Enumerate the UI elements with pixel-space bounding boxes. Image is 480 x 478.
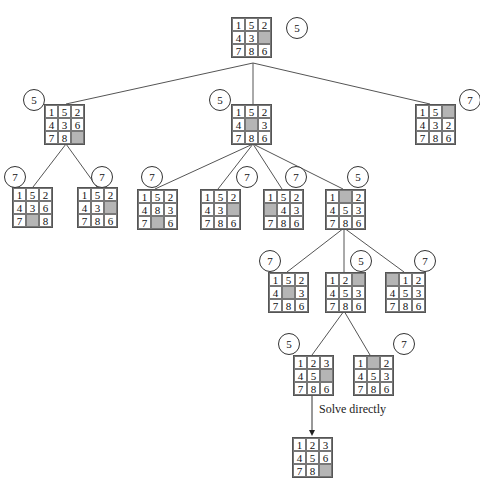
- tile: 2: [442, 118, 455, 131]
- tile: 3: [245, 31, 258, 44]
- tile: 2: [71, 105, 84, 118]
- puzzle-board: 12453786: [325, 272, 366, 313]
- tile: 3: [412, 286, 425, 299]
- tile: 5: [339, 203, 352, 216]
- tile: 8: [339, 299, 352, 312]
- tile: 2: [258, 105, 271, 118]
- tile: 1: [326, 190, 339, 203]
- tile: 4: [269, 286, 282, 299]
- tile: 4: [45, 118, 58, 131]
- tile: 8: [367, 382, 380, 395]
- tile: 8: [429, 131, 442, 144]
- tile: 5: [214, 190, 227, 203]
- tile: 3: [258, 118, 271, 131]
- tile: 7: [264, 216, 277, 229]
- blank-tile: [71, 131, 84, 144]
- tile: 4: [386, 286, 399, 299]
- tile: 7: [201, 216, 214, 229]
- tile: 4: [78, 201, 91, 214]
- tile: 5: [26, 188, 39, 201]
- blank-tile: [367, 356, 380, 369]
- puzzle-board: 12345678: [292, 437, 333, 478]
- tile: 2: [412, 273, 425, 286]
- tile: 8: [91, 214, 104, 227]
- blank-tile: [264, 203, 277, 216]
- tile: 4: [201, 203, 214, 216]
- search-tree-diagram: 1524378651524367851524378651543278671524…: [0, 0, 480, 478]
- tile: 7: [232, 44, 245, 57]
- tile: 1: [264, 190, 277, 203]
- puzzle-board: 12345786: [293, 355, 334, 396]
- tile: 5: [429, 105, 442, 118]
- tile: 5: [399, 286, 412, 299]
- blank-tile: [227, 203, 240, 216]
- tile: 5: [367, 369, 380, 382]
- puzzle-board: 15243786: [263, 189, 304, 230]
- tile: 8: [214, 216, 227, 229]
- tile: 3: [429, 118, 442, 131]
- tile: 8: [151, 203, 164, 216]
- tile: 3: [295, 286, 308, 299]
- solve-directly-label: Solve directly: [319, 402, 386, 417]
- tile: 7: [13, 214, 26, 227]
- cost-badge: 5: [278, 333, 300, 355]
- tile: 7: [416, 131, 429, 144]
- cost-badge: 7: [414, 250, 436, 272]
- tile: 6: [352, 216, 365, 229]
- tile: 8: [339, 216, 352, 229]
- tile: 1: [416, 105, 429, 118]
- cost-badge: 7: [91, 166, 113, 188]
- tile: 4: [354, 369, 367, 382]
- tile: 7: [269, 299, 282, 312]
- tile: 1: [201, 190, 214, 203]
- tree-edge: [253, 63, 430, 104]
- tile: 1: [13, 188, 26, 201]
- blank-tile: [26, 214, 39, 227]
- tile: 4: [138, 203, 151, 216]
- tile: 6: [104, 214, 117, 227]
- tile: 6: [39, 201, 52, 214]
- tile: 6: [164, 216, 177, 229]
- tile: 5: [58, 105, 71, 118]
- cost-badge: 5: [286, 17, 308, 39]
- tile: 1: [294, 356, 307, 369]
- tile: 1: [232, 18, 245, 31]
- cost-badge: 7: [141, 166, 163, 188]
- tree-edge: [33, 144, 66, 187]
- puzzle-board: 15432786: [415, 104, 456, 145]
- blank-tile: [282, 286, 295, 299]
- puzzle-board: 12453786: [385, 272, 426, 313]
- puzzle-board: 15248376: [137, 189, 178, 230]
- tile: 8: [307, 382, 320, 395]
- tile: 3: [380, 369, 393, 382]
- blank-tile: [319, 464, 332, 477]
- cost-badge: 7: [4, 166, 26, 188]
- tile: 6: [320, 382, 333, 395]
- tree-edge: [344, 311, 370, 355]
- tile: 3: [352, 286, 365, 299]
- blank-tile: [104, 201, 117, 214]
- puzzle-board: 15243786: [231, 17, 272, 58]
- tile: 6: [442, 131, 455, 144]
- tile: 7: [326, 216, 339, 229]
- tile: 6: [290, 216, 303, 229]
- tile: 6: [380, 382, 393, 395]
- tile: 6: [258, 131, 271, 144]
- tile: 4: [326, 203, 339, 216]
- tile: 2: [295, 273, 308, 286]
- tile: 3: [214, 203, 227, 216]
- tile: 6: [412, 299, 425, 312]
- tile: 3: [91, 201, 104, 214]
- tile: 4: [416, 118, 429, 131]
- tile: 1: [269, 273, 282, 286]
- cost-badge: 7: [236, 166, 258, 188]
- tile: 5: [151, 190, 164, 203]
- tile: 1: [293, 438, 306, 451]
- puzzle-board: 15243786: [200, 189, 241, 230]
- tile: 2: [306, 438, 319, 451]
- blank-tile: [442, 105, 455, 118]
- tile: 6: [227, 216, 240, 229]
- tile: 5: [307, 369, 320, 382]
- tile: 2: [352, 190, 365, 203]
- puzzle-board: 15243678: [44, 104, 85, 145]
